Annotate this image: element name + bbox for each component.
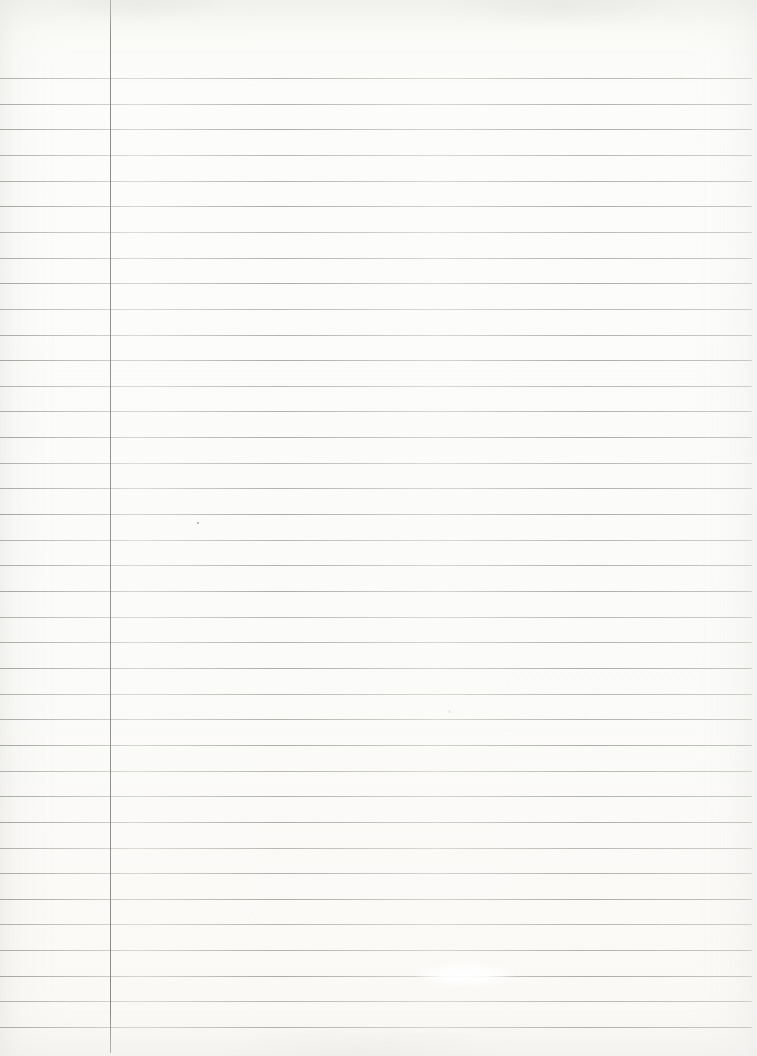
ruled-line	[0, 899, 752, 900]
ruled-line	[0, 719, 752, 720]
paper-texture	[0, 0, 757, 1056]
ruled-line	[0, 924, 752, 925]
ruled-line	[0, 488, 752, 489]
ruled-line	[0, 745, 752, 746]
ruled-line	[0, 617, 752, 618]
ruled-line	[0, 104, 752, 105]
ruled-line	[0, 258, 752, 259]
ruled-line	[0, 411, 752, 412]
ruled-line	[0, 950, 752, 951]
faint-smudge	[448, 710, 451, 713]
ruled-line	[0, 129, 752, 130]
ruled-line	[0, 976, 752, 977]
ruled-line	[0, 565, 752, 566]
ruled-line	[0, 181, 752, 182]
ruled-line	[0, 822, 752, 823]
ruled-line	[0, 437, 752, 438]
ruled-line	[0, 540, 752, 541]
ruled-line	[0, 668, 752, 669]
ruled-line	[0, 232, 752, 233]
ruled-line	[0, 1001, 752, 1002]
ruled-line	[0, 1027, 752, 1028]
ruled-line	[0, 206, 752, 207]
margin-line	[110, 0, 111, 1053]
ruled-line	[0, 360, 752, 361]
ruled-line	[0, 591, 752, 592]
ruled-line	[0, 78, 752, 79]
ruled-line	[0, 771, 752, 772]
notebook-paper	[0, 0, 757, 1056]
ruled-line	[0, 873, 752, 874]
ruled-line	[0, 514, 752, 515]
ruled-line	[0, 848, 752, 849]
ruled-line	[0, 309, 752, 310]
pencil-speck	[197, 522, 199, 524]
ruled-line	[0, 155, 752, 156]
ruled-line	[0, 386, 752, 387]
ruled-line	[0, 642, 752, 643]
ruled-line	[0, 283, 752, 284]
ruled-line	[0, 463, 752, 464]
ruled-line	[0, 796, 752, 797]
ruled-line	[0, 335, 752, 336]
ruled-line	[0, 694, 752, 695]
